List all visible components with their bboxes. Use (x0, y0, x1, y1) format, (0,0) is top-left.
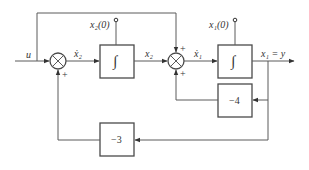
ic-terminal-icon (114, 18, 118, 22)
ic-label-x2: x₂(0) (89, 19, 110, 31)
x2-label: x₂ (144, 48, 153, 59)
sum2-plus-sign-bottom: + (180, 68, 186, 79)
ic-terminal-icon (233, 18, 237, 22)
ic-label-x1: x₁(0) (208, 19, 229, 31)
gain-value-minus4: −4 (229, 95, 240, 106)
block-diagram: u + ẋ₂ ∫ x₂(0) x₂ + + ẋ₁ ∫ x₁(0) x₁ = y … (0, 0, 309, 170)
sum1-plus-sign: + (62, 69, 68, 80)
output-label: x₁ = y (260, 48, 286, 59)
outer-feedback-out (58, 70, 100, 140)
summing-junction-2 (168, 53, 184, 69)
gain-value-minus3: −3 (111, 134, 122, 145)
input-label: u (26, 49, 31, 60)
summing-junction-1 (50, 53, 66, 69)
x1dot-label: ẋ₁ (193, 48, 202, 59)
sum2-plus-sign-top: + (180, 43, 186, 54)
x2dot-label: ẋ₂ (73, 48, 82, 59)
